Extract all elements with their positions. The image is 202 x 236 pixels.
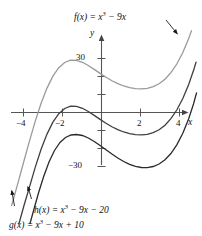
x-tick-label-neg4: −4 (16, 119, 26, 128)
h-function-label: h(x) = x3 − 9x − 20 (34, 204, 109, 216)
f-label-tail: − 9x (106, 12, 126, 22)
g-label-tail: − 9x + 10 (43, 220, 84, 230)
h-label-text: h(x) = x (34, 205, 65, 215)
g-label-text: g(x) = x (9, 220, 40, 230)
x-axis-label: x (188, 118, 192, 128)
x-tick-label-neg2: −2 (55, 119, 65, 128)
y-axis-label: y (90, 29, 94, 39)
cubic-functions-figure: f(x) = x3 − 9x y x 30 −30 −4 −2 2 4 h(x)… (0, 0, 202, 236)
x-tick-label-2: 2 (137, 119, 142, 128)
curve-f (19, 62, 196, 223)
h-label-tail: − 9x − 20 (68, 205, 109, 215)
f-label-text: f(x) = x (74, 12, 103, 22)
y-tick-label-neg30: −30 (68, 161, 82, 170)
f-label-arrow (166, 20, 177, 34)
y-tick-label-30: 30 (76, 53, 85, 62)
f-function-label: f(x) = x3 − 9x (74, 11, 126, 23)
h-label-arrow (28, 187, 32, 199)
g-function-label: g(x) = x3 − 9x + 10 (9, 219, 84, 231)
plot-canvas (0, 0, 202, 236)
x-tick-label-4: 4 (176, 119, 181, 128)
